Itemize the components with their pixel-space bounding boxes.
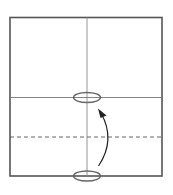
paper-square (10, 18, 162, 177)
diagram-canvas (0, 0, 173, 195)
